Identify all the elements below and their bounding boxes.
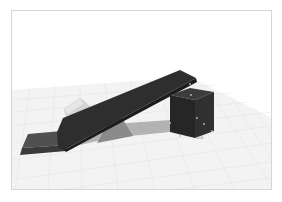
scene-canvas[interactable]: [0, 0, 282, 202]
selected-cube[interactable]: [170, 95, 195, 138]
cube-dimension-label: 20.00: [196, 136, 204, 140]
